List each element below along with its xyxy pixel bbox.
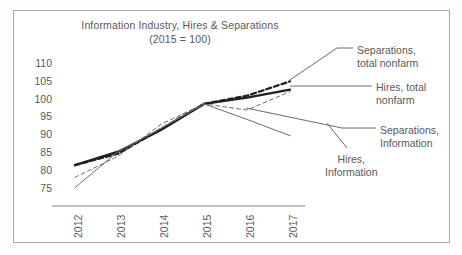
chart-plot-area [0,0,462,255]
leader-line-separations-total-nonfarm [290,48,353,80]
series-line-separations-information [75,92,290,178]
data-series-group [75,81,290,187]
leader-line-separations-information [246,108,376,128]
series-line-hires-information [75,104,290,188]
chart-figure: Information Industry, Hires & Separation… [0,0,462,255]
annotation-leader-lines [246,48,376,148]
series-line-hires-total-nonfarm [75,90,290,166]
